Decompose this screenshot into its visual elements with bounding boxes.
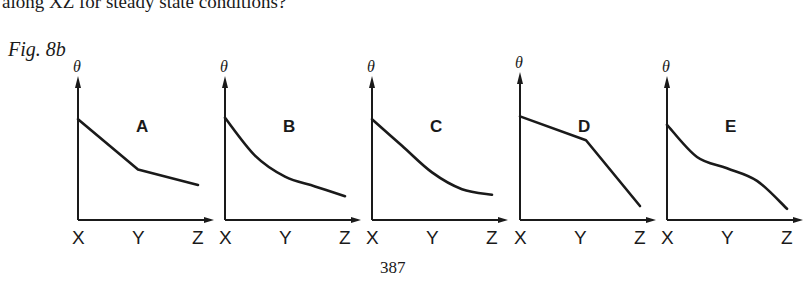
y-axis-label-d: θ	[515, 54, 523, 71]
x-axis-arrow-b	[351, 217, 361, 223]
x-tick-z-d: Z	[634, 227, 646, 248]
x-tick-x-b: X	[219, 227, 232, 248]
x-tick-y-b: Y	[279, 227, 292, 248]
panel-label-e: E	[725, 117, 736, 136]
x-axis-arrow-e	[793, 217, 803, 223]
y-axis-label-a: θ	[73, 58, 81, 75]
x-tick-x-e: X	[661, 227, 674, 248]
x-tick-y-d: Y	[574, 227, 587, 248]
x-tick-z-b: Z	[339, 227, 351, 248]
panel-label-d: D	[578, 117, 590, 136]
x-tick-y-e: Y	[721, 227, 734, 248]
y-axis-arrow-e	[664, 76, 670, 88]
x-tick-z-a: Z	[192, 227, 204, 248]
panel-label-a: A	[136, 117, 148, 136]
y-axis-arrow-d	[517, 72, 523, 84]
panel-label-c: C	[430, 117, 442, 136]
x-axis-arrow-d	[646, 217, 656, 223]
panel-label-b: B	[283, 117, 295, 136]
x-axis-arrow-c	[498, 217, 508, 223]
y-axis-label-b: θ	[220, 58, 228, 75]
x-tick-y-c: Y	[426, 227, 439, 248]
x-tick-x-d: X	[514, 227, 527, 248]
y-axis-arrow-a	[75, 76, 81, 88]
y-axis-arrow-c	[369, 76, 375, 88]
x-axis-arrow-a	[204, 217, 214, 223]
x-tick-z-e: Z	[781, 227, 793, 248]
x-tick-z-c: Z	[486, 227, 498, 248]
curve-e	[667, 125, 787, 209]
y-axis-label-c: θ	[367, 58, 375, 75]
figure-8b: θXYZAθXYZBθXYZCθXYZDθXYZE	[0, 0, 809, 283]
x-tick-x-c: X	[366, 227, 379, 248]
x-tick-y-a: Y	[132, 227, 145, 248]
y-axis-label-e: θ	[662, 58, 670, 75]
y-axis-arrow-b	[222, 76, 228, 88]
x-tick-x-a: X	[72, 227, 85, 248]
page-number: 387	[380, 258, 406, 278]
